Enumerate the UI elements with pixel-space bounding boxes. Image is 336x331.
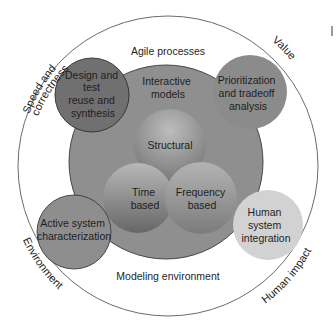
core-circle-frequency	[165, 162, 237, 234]
label-structural: Structural	[148, 139, 193, 151]
label-agile-processes: Agile processes	[131, 45, 205, 57]
label-modeling-environment: Modeling environment	[116, 270, 219, 282]
label-human-system: Human system integration	[241, 206, 290, 244]
page-edge-mark	[331, 26, 333, 36]
core-circle-time	[103, 163, 173, 233]
ring-label-value: Value	[270, 33, 298, 61]
label-design-test-reuse: Design and test reuse and synthesis	[65, 69, 121, 119]
label-active-system: Active system characterization	[37, 217, 111, 242]
label-time-based: Time based	[131, 186, 160, 211]
concept-diagram: Speed and correctness Value Environment …	[0, 0, 336, 331]
